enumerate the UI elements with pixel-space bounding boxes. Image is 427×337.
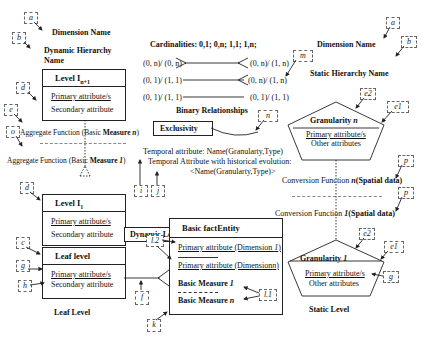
tag-l1: l.1 (259, 289, 277, 301)
level-n1-title: Level In+1 (55, 74, 90, 87)
tag-k: k (147, 319, 161, 332)
tag-p-1: p (398, 155, 414, 167)
rel-left-3: (0, 1)/ (1, 1) (143, 93, 182, 102)
cardinalities-label: Cardinalities: 0,1; 0,n; 1,1; 1,n; (150, 40, 257, 49)
granularity-n-primary: Primary attribute/s (306, 130, 366, 139)
tag-b-left: b (12, 32, 26, 44)
static-level-caption: Static Level (309, 305, 349, 314)
granularity-1-primary: Primary attribute/s (305, 269, 365, 278)
aggregate-function-1: Aggregate Function (Basic Measure 1) (7, 156, 126, 165)
tag-d-bottom: d (20, 182, 34, 194)
conversion-function-1: Conversion Function 1(Spatial data) (275, 209, 395, 218)
level-n1-secondary: Secondary attribute (51, 105, 113, 114)
tag-n: n (258, 110, 278, 122)
rel-left-1: (0, n)/ (0, n) (143, 59, 182, 68)
fact-primary-dim-1: Primary attribute (Dimension 1) (178, 243, 281, 252)
aggregate-function-n: Aggregate Function (Basic Measure n) (20, 128, 139, 137)
rel-right-3: (0, 1)/ (1, 1) (250, 93, 289, 102)
fact-measure-n: Basic Measure n (178, 296, 234, 305)
fact-title: Basic factEntity (182, 224, 240, 233)
tag-a-left: a (24, 12, 38, 24)
leaf-secondary: Secondary attribute (51, 280, 113, 289)
leaf-primary: Primary attribute/s (51, 270, 111, 279)
static-hierarchy-name: Static Hierarchy Name (310, 69, 389, 78)
conversion-function-n: Conversion Function n(Spatial data) (282, 176, 402, 185)
tag-i: i (134, 185, 148, 197)
tag-p-2: p (398, 187, 414, 199)
temporal-historical: Temporal Attribute with historical evolu… (148, 157, 291, 166)
leaf-level-caption: Leaf Level (54, 308, 90, 317)
tag-g-left: g (16, 260, 30, 272)
dynamic-hierarchy-name: Dynamic Hierarchy (44, 46, 112, 55)
dimension-name-left: Dimension Name (52, 28, 110, 37)
rel-right-1: (0, n)/ (1, n) (250, 59, 289, 68)
tag-e1-top: e1 (387, 101, 409, 113)
level-n1-entity[interactable]: Level In+1 Primary attribute/s Secondary… (42, 69, 126, 121)
leaf-level-title: Leaf level (55, 252, 90, 261)
fact-primary-dim-n: Primary attribute (Dimensionn) (178, 261, 279, 270)
granularity-n-other: Other attributes (311, 139, 361, 148)
tag-g-right: g (383, 271, 399, 283)
tag-c-left: c (16, 237, 30, 249)
tag-j: j (151, 185, 165, 197)
level-n1-primary: Primary attribute/s (51, 92, 111, 101)
dimension-name-right: Dimension Name (317, 40, 375, 49)
tag-m: m (293, 50, 313, 62)
tag-f: f (135, 291, 149, 305)
rel-right-2: (0, n)/ (1, n) (248, 76, 287, 85)
tag-o-left: o (6, 126, 20, 138)
level-1-title: Level I1 (55, 199, 83, 212)
fact-measure-1: Basic Measure 1 (178, 279, 234, 288)
granularity-1-title: Granularity 1 (300, 254, 347, 263)
tag-h-left: h (18, 280, 32, 292)
exclusivity-box: Exclusivity (153, 121, 213, 136)
temporal-attribute: Temporal attribute: Name(Granularty,Type… (143, 147, 283, 156)
tag-a-right: a (386, 17, 400, 29)
level-1-primary: Primary attribute/s (51, 217, 111, 226)
granularity-1-other: Other attributes (309, 279, 359, 288)
granularity-n-title: Granularity n (310, 116, 358, 125)
temporal-historical-name: <Name(Granularty,Type)> (190, 167, 275, 176)
tag-e-left: e (4, 104, 18, 116)
tag-d-top: d (16, 82, 30, 94)
leaf-level-entity[interactable]: Leaf level Primary attribute/s Secondary… (42, 247, 126, 299)
binary-relationships-label: Binary Relationships (176, 106, 248, 115)
level-1-secondary: Secondary attribute (51, 230, 113, 239)
tag-b-right: b (401, 36, 417, 48)
rel-left-2: (0, 1)/ (1, 1) (143, 76, 182, 85)
level-1-entity[interactable]: Level I1 Primary attribute/s Secondary a… (42, 194, 126, 246)
tag-e2-top: e2 (360, 88, 376, 100)
dynamic-hierarchy-name-2: Name (44, 56, 64, 65)
tag-e1-bottom: e1 (384, 241, 404, 253)
tag-l2: l.2 (146, 235, 164, 247)
tag-e2-bottom: e2 (359, 228, 375, 240)
